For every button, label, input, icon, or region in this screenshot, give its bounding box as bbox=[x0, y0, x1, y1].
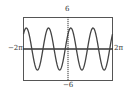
x-min-label: −2π bbox=[8, 45, 23, 52]
x-max-label: 2π bbox=[114, 45, 123, 52]
y-min-label: −6 bbox=[63, 82, 73, 89]
y-max-label: 6 bbox=[65, 6, 69, 13]
